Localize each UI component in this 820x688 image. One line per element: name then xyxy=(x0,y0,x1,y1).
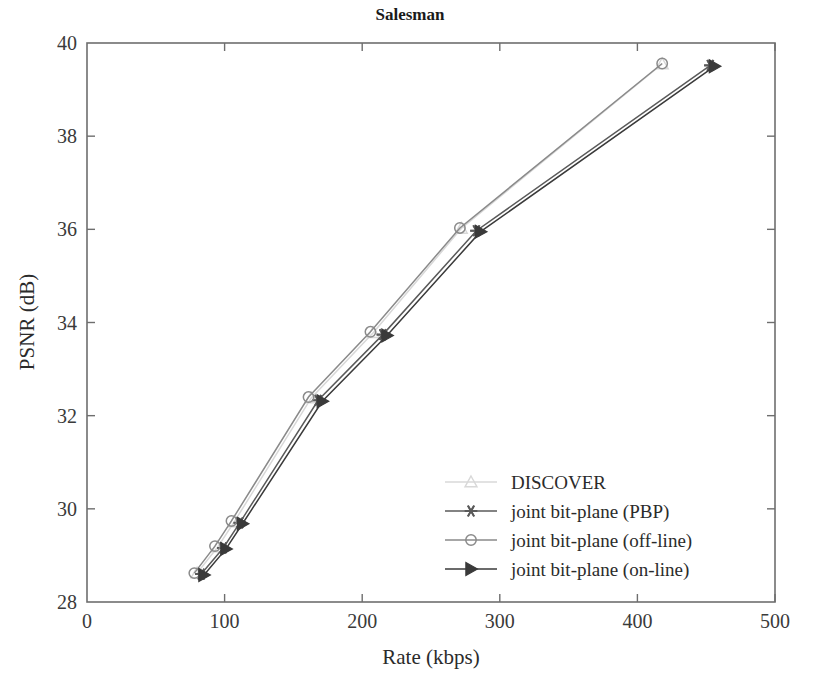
legend-label: joint bit-plane (on-line) xyxy=(510,559,689,581)
legend-label: DISCOVER xyxy=(511,472,606,493)
series-0 xyxy=(191,58,668,578)
x-tick-label: 100 xyxy=(210,610,240,632)
legend-item-1[interactable]: joint bit-plane (PBP) xyxy=(445,501,669,523)
y-tick-label: 34 xyxy=(57,312,77,334)
y-tick-label: 28 xyxy=(57,591,77,613)
x-tick-label: 200 xyxy=(347,610,377,632)
data-point-marker-triangle-right xyxy=(237,517,249,530)
chart-legend: DISCOVERjoint bit-plane (PBP)joint bit-p… xyxy=(445,472,692,581)
y-axis-ticks: 28303234363840 xyxy=(57,32,775,613)
y-axis-title: PSNR (dB) xyxy=(15,274,39,370)
x-axis-title: Rate (kbps) xyxy=(382,645,479,669)
y-tick-label: 32 xyxy=(57,405,77,427)
legend-item-3[interactable]: joint bit-plane (on-line) xyxy=(445,559,689,581)
x-tick-label: 400 xyxy=(622,610,652,632)
figure-container: Salesman 0100200300400500 28303234363840… xyxy=(0,0,820,688)
data-point-marker-triangle-right xyxy=(466,563,478,576)
plot-frame xyxy=(87,43,775,602)
y-tick-label: 38 xyxy=(57,125,77,147)
psnr-vs-rate-chart: Salesman 0100200300400500 28303234363840… xyxy=(0,0,820,688)
data-point-marker-triangle-right xyxy=(221,542,233,555)
legend-item-0[interactable]: DISCOVER xyxy=(445,472,606,493)
legend-label: joint bit-plane (PBP) xyxy=(510,501,669,523)
y-tick-label: 40 xyxy=(57,32,77,54)
series-line xyxy=(194,63,662,573)
series-line xyxy=(201,65,710,574)
data-point-marker-star xyxy=(465,506,477,517)
legend-label: joint bit-plane (off-line) xyxy=(510,530,692,552)
x-tick-label: 300 xyxy=(485,610,515,632)
series-line xyxy=(197,64,662,573)
x-tick-label: 500 xyxy=(760,610,790,632)
y-tick-label: 36 xyxy=(57,218,77,240)
data-point-marker-triangle-right xyxy=(709,60,721,73)
series-line xyxy=(204,66,714,575)
legend-item-2[interactable]: joint bit-plane (off-line) xyxy=(445,530,692,552)
chart-title: Salesman xyxy=(376,5,446,24)
x-tick-label: 0 xyxy=(82,610,92,632)
y-tick-label: 30 xyxy=(57,498,77,520)
